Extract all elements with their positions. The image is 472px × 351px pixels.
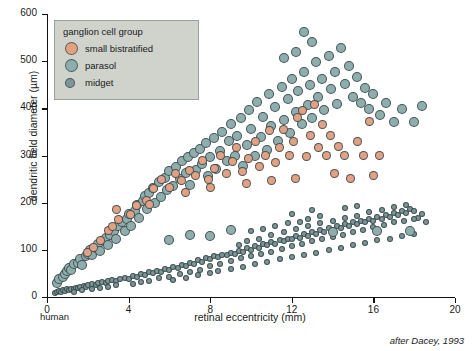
- axis-line: [47, 14, 48, 298]
- data-point: [346, 174, 355, 183]
- legend-swatch-parasol: [65, 59, 78, 72]
- data-point: [411, 208, 417, 214]
- data-point: [264, 89, 274, 99]
- data-point: [306, 131, 315, 140]
- legend-label-small-bistratified: small bistratified: [85, 43, 153, 54]
- data-point: [258, 112, 268, 122]
- data-point: [359, 151, 368, 160]
- data-point: [344, 61, 354, 71]
- data-point: [340, 79, 350, 89]
- data-point: [330, 67, 340, 77]
- data-point: [240, 264, 246, 270]
- data-point: [244, 238, 250, 244]
- data-point: [381, 222, 387, 228]
- x-tick-label: 12: [280, 304, 304, 315]
- data-point: [287, 74, 297, 84]
- x-tick-label: 20: [443, 304, 467, 315]
- data-point: [183, 275, 189, 281]
- legend-label-parasol: parasol: [85, 60, 116, 71]
- data-point: [238, 255, 244, 261]
- data-point: [405, 226, 415, 236]
- data-point: [283, 94, 293, 104]
- data-point: [271, 158, 280, 167]
- data-point: [195, 272, 201, 278]
- data-point: [389, 117, 399, 127]
- data-point: [217, 127, 227, 137]
- legend-item-parasol: parasol: [65, 57, 192, 74]
- x-tick-label: 4: [117, 304, 141, 315]
- legend-swatch-small-bistratified: [65, 42, 78, 55]
- data-point: [362, 240, 368, 246]
- y-tick-mark: [42, 156, 47, 157]
- data-point: [244, 105, 254, 115]
- data-point: [238, 167, 247, 176]
- x-tick-mark: [129, 298, 130, 303]
- data-point: [285, 151, 294, 160]
- legend-item-small-bistratified: small bistratified: [65, 40, 192, 57]
- data-point: [375, 151, 384, 160]
- data-point: [146, 278, 152, 284]
- data-point: [301, 252, 307, 258]
- data-point: [307, 37, 317, 47]
- data-point: [277, 256, 283, 262]
- x-tick-mark: [210, 298, 211, 303]
- data-point: [326, 131, 335, 140]
- data-point: [260, 226, 266, 232]
- legend-title: ganglion cell group: [63, 26, 192, 37]
- data-point: [96, 236, 105, 245]
- data-point: [206, 183, 215, 192]
- data-point: [299, 241, 305, 247]
- x-tick-mark: [455, 298, 456, 303]
- data-point: [411, 216, 417, 222]
- data-point: [313, 250, 319, 256]
- data-point: [328, 227, 338, 237]
- data-point: [138, 279, 144, 285]
- data-point: [310, 100, 319, 109]
- data-point: [187, 269, 193, 275]
- y-tick-label: 0: [7, 290, 37, 301]
- y-tick-mark: [42, 108, 47, 109]
- data-point: [360, 227, 366, 233]
- x-tick-mark: [373, 298, 374, 303]
- data-point: [270, 102, 280, 112]
- y-tick-mark: [42, 250, 47, 251]
- data-point: [309, 207, 315, 213]
- data-point: [149, 184, 158, 193]
- legend-swatch-midget: [65, 78, 75, 88]
- data-point: [181, 188, 190, 197]
- data-point: [236, 242, 242, 248]
- data-point: [216, 151, 225, 160]
- data-point: [391, 219, 397, 225]
- data-point: [354, 213, 360, 219]
- data-point: [372, 226, 382, 236]
- y-tick-mark: [42, 14, 47, 15]
- data-point: [391, 204, 397, 210]
- data-point: [289, 137, 298, 146]
- y-tick-label: 300: [7, 149, 37, 160]
- data-point: [207, 270, 213, 276]
- data-point: [165, 183, 174, 192]
- data-point: [317, 213, 323, 219]
- data-point: [145, 200, 154, 209]
- x-tick-label: 8: [198, 304, 222, 315]
- data-point: [353, 137, 362, 146]
- data-point: [334, 142, 343, 151]
- data-point: [111, 234, 121, 244]
- data-point: [397, 104, 407, 114]
- data-point: [291, 174, 300, 183]
- data-point: [177, 271, 183, 277]
- data-point: [307, 113, 317, 123]
- data-point: [317, 74, 327, 84]
- x-axis-label: retinal eccentricity (mm): [120, 311, 380, 323]
- data-point: [319, 236, 325, 242]
- data-point: [232, 131, 242, 141]
- data-point: [293, 226, 299, 232]
- axis-line: [47, 297, 455, 298]
- data-point: [365, 117, 374, 126]
- y-tick-label: 100: [7, 243, 37, 254]
- data-point: [298, 106, 307, 115]
- data-point: [319, 105, 329, 115]
- data-point: [205, 152, 215, 162]
- x-tick-label: 0: [35, 304, 59, 315]
- data-point: [177, 176, 186, 185]
